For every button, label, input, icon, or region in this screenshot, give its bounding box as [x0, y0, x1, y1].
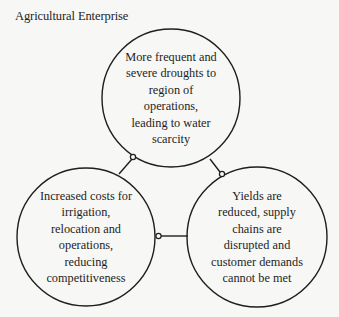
node-line: leading to water	[131, 115, 210, 132]
node-line: Increased costs for	[40, 188, 132, 205]
node-line: operations,	[59, 237, 113, 254]
node-costs: Increased costs for irrigation, relocati…	[21, 189, 151, 285]
node-line: operations,	[144, 98, 198, 115]
node-line: chains are	[232, 221, 282, 238]
connector-end-icon	[156, 233, 161, 238]
node-line: relocation and	[51, 221, 121, 238]
node-line: Yields are	[232, 188, 282, 205]
node-line: severe droughts to	[126, 65, 216, 82]
node-line: More frequent and	[125, 49, 217, 66]
node-line: reduced, supply	[218, 204, 296, 221]
node-line: reducing	[64, 254, 107, 271]
node-line: region of	[149, 82, 194, 99]
node-line: competitiveness	[46, 270, 125, 287]
connector-droughts-costs	[119, 159, 132, 174]
node-droughts: More frequent and severe droughts to reg…	[106, 50, 236, 146]
node-line: cannot be met	[223, 270, 292, 287]
node-yields: Yields are reduced, supply chains are di…	[192, 189, 322, 285]
connector-end-icon	[130, 154, 135, 159]
node-line: disrupted and	[224, 237, 291, 254]
connector-end-icon	[219, 171, 224, 176]
connector-droughts-yields	[210, 159, 220, 172]
node-line: scarcity	[152, 131, 190, 148]
node-line: irrigation,	[62, 204, 111, 221]
node-line: customer demands	[211, 254, 303, 271]
